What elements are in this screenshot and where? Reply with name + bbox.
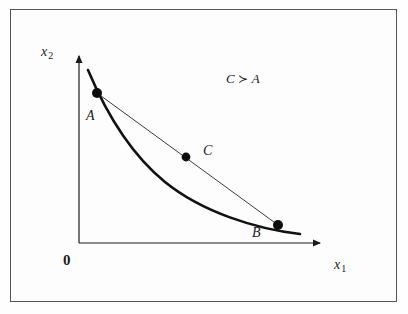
preference-annotation: C≻A <box>226 72 260 85</box>
point-a-marker <box>92 88 102 98</box>
y-axis-label-subscript: 2 <box>48 50 53 61</box>
origin-label: 0 <box>63 253 71 268</box>
point-c-marker <box>182 153 191 162</box>
preference-right-term: A <box>252 71 260 86</box>
indifference-curve <box>88 70 300 234</box>
preference-relation-symbol: ≻ <box>238 72 249 86</box>
point-b-marker <box>273 220 283 230</box>
point-a-label: A <box>86 109 95 123</box>
figure-root: x2 x1 0 A B C C≻A <box>0 0 408 314</box>
point-c-label: C <box>203 144 212 158</box>
x-axis-label-subscript: 1 <box>341 263 346 274</box>
preference-left-term: C <box>226 71 235 86</box>
x-axis-label-base: x <box>334 257 340 272</box>
y-axis-label-base: x <box>41 44 47 59</box>
x-axis-label: x1 <box>334 258 346 274</box>
y-axis-label: x2 <box>41 45 53 61</box>
point-b-label: B <box>252 226 261 240</box>
